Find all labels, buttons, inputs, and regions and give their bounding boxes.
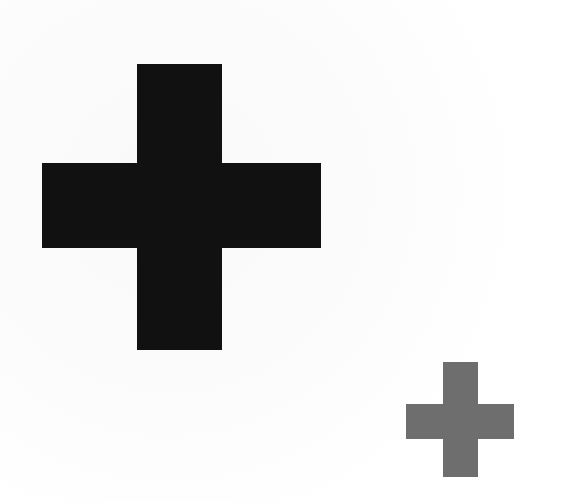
plus-horizontal-arm [42, 163, 321, 248]
large-black-plus [42, 64, 321, 350]
plus-horizontal-arm [406, 404, 514, 439]
image-canvas [0, 0, 566, 502]
small-gray-plus [406, 362, 514, 477]
